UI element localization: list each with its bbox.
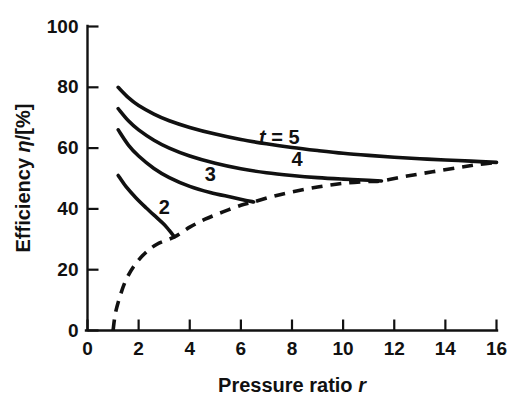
- x-axis-title: Pressure ratio r: [218, 374, 367, 396]
- chart-figure: 020406080100 0246810121416 t = 5432 Pres…: [0, 0, 532, 409]
- x-tick-label: 6: [236, 338, 247, 359]
- y-tick-label: 100: [47, 16, 79, 37]
- y-tick-label: 60: [57, 137, 78, 158]
- y-tick-label: 0: [68, 320, 79, 341]
- y-tick-label: 20: [57, 259, 78, 280]
- y-tick-label: 80: [57, 76, 78, 97]
- y-axis-tick-labels: 020406080100: [47, 16, 79, 341]
- y-axis-ticks: [88, 27, 99, 331]
- x-tick-label: 12: [384, 338, 405, 359]
- x-tick-label: 14: [435, 338, 457, 359]
- series-label-4: 4: [292, 148, 304, 170]
- chart-canvas: 020406080100 0246810121416 t = 5432 Pres…: [0, 0, 532, 409]
- x-tick-label: 2: [133, 338, 144, 359]
- x-axis-ticks: [88, 320, 497, 331]
- y-axis-title: Efficiency η/[%]: [12, 104, 34, 253]
- data-series-group: [113, 87, 496, 330]
- series-label-3: 3: [205, 163, 216, 185]
- x-tick-label: 8: [287, 338, 298, 359]
- x-tick-label: 0: [82, 338, 93, 359]
- y-tick-label: 40: [57, 198, 78, 219]
- x-tick-label: 10: [333, 338, 354, 359]
- x-axis-tick-labels: 0246810121416: [82, 338, 507, 359]
- axis-lines: [86, 26, 497, 331]
- series-label-group: t = 5432: [159, 126, 304, 218]
- envelope-curve-dashed: [113, 162, 496, 330]
- x-tick-label: 16: [486, 338, 507, 359]
- x-tick-label: 4: [184, 338, 195, 359]
- series-label-2: 2: [159, 196, 170, 218]
- series-label-t-5: t = 5: [259, 126, 300, 148]
